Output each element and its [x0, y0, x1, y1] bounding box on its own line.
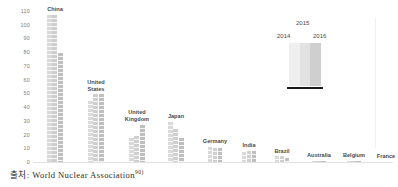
y-tick-label: 70 — [24, 64, 30, 69]
bar-group: Germany — [208, 147, 223, 163]
bar-2016 — [179, 138, 184, 163]
y-tick-label: 10 — [24, 147, 30, 152]
bar-group: United States — [88, 94, 104, 163]
bar-2016 — [252, 151, 257, 163]
y-tick-label: 30 — [24, 119, 30, 124]
bar-group-label: United States — [87, 79, 104, 92]
legend-swatch-2016 — [310, 43, 321, 86]
source-prefix: 출처: — [10, 170, 30, 180]
bar-2015 — [134, 136, 139, 163]
bar-2016 — [140, 125, 145, 163]
bar-2014 — [47, 15, 52, 163]
nuclear-capacity-bar-chart: 1101009080706050403020100 ChinaUnited St… — [0, 0, 398, 187]
legend-swatches — [289, 43, 321, 86]
bar-group-label: Brazil — [274, 148, 289, 155]
bar-2014 — [242, 152, 247, 163]
bar-group-label: France — [377, 153, 395, 160]
y-tick-label: 100 — [20, 23, 30, 28]
bar-2014 — [208, 147, 213, 163]
bar-group-label: Germany — [203, 138, 227, 145]
bar-2015 — [93, 94, 98, 163]
bar-2015 — [213, 148, 218, 163]
bar-group: United Kingdom — [129, 125, 145, 163]
bar-2014 — [88, 101, 93, 163]
plot-area: 1101009080706050403020100 ChinaUnited St… — [33, 12, 393, 163]
legend-label-2016: 2016 — [313, 33, 326, 39]
bar-group: China — [47, 15, 63, 163]
right-edge-rule — [375, 18, 376, 148]
legend-baseline — [287, 87, 323, 89]
bar-group-label: India — [242, 142, 255, 149]
y-tick-label: 110 — [21, 9, 30, 14]
legend-swatch-2014 — [289, 43, 300, 86]
y-tick-label: 50 — [24, 92, 30, 97]
bar-group-label: United Kingdom — [125, 109, 149, 122]
source-text: World Nuclear Association — [32, 170, 135, 180]
bar-group: Japan — [168, 122, 184, 163]
y-tick-label: 80 — [24, 50, 30, 55]
bar-2015 — [173, 129, 178, 163]
y-tick-label: 20 — [24, 133, 30, 138]
legend-label-2014: 2014 — [277, 33, 290, 39]
x-axis-baseline — [33, 162, 393, 163]
bar-group-label: Australia — [307, 152, 331, 159]
bar-group-label: Japan — [168, 113, 184, 120]
y-tick-label: 90 — [24, 37, 30, 42]
bar-2015 — [247, 151, 252, 163]
source-footnote: 90) — [135, 169, 144, 175]
y-tick-label: 0 — [27, 160, 30, 165]
bar-group-label: China — [47, 6, 63, 13]
bar-2016 — [218, 148, 223, 163]
bar-2014 — [129, 138, 134, 163]
y-tick-label: 40 — [24, 105, 30, 110]
bar-2014 — [168, 122, 173, 163]
legend-swatch-2015 — [300, 43, 311, 86]
y-tick-label: 60 — [24, 78, 30, 83]
bar-group-label: Belgium — [343, 152, 365, 159]
legend-label-2015: 2015 — [296, 20, 309, 26]
bar-2015 — [52, 15, 57, 163]
legend: 2015 2014 2016 — [283, 20, 327, 90]
source-caption: 출처: World Nuclear Association90) — [10, 168, 144, 180]
bar-2016 — [58, 53, 63, 163]
bar-2016 — [99, 94, 104, 163]
bar-group: India — [242, 151, 257, 163]
